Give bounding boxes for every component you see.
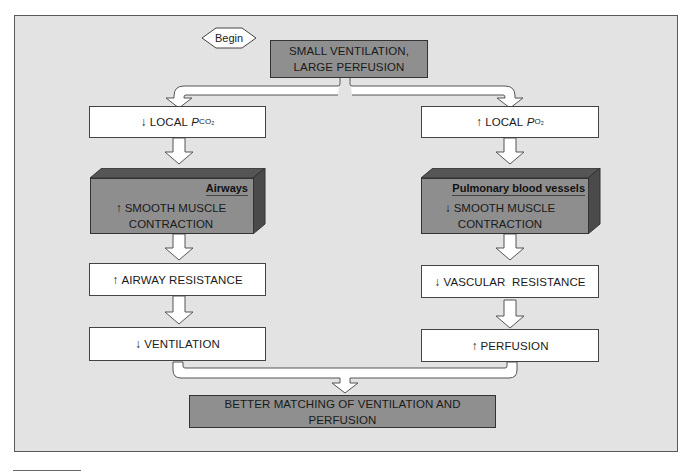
arrow-up-icon: ↑ <box>476 114 482 130</box>
airways-body: ↑SMOOTH MUSCLE CONTRACTION <box>96 200 246 232</box>
arrow-l2 <box>165 234 193 260</box>
arrow-up-icon: ↑ <box>471 338 477 354</box>
perfusion-box: ↑ PERFUSION <box>421 329 599 362</box>
arrow-down-icon: ↓ <box>434 274 440 290</box>
arrow-down-icon: ↓ <box>445 201 451 215</box>
arrow-up-icon: ↑ <box>116 201 122 215</box>
local-pco2-box: ↓ LOCAL PCO₂ <box>89 106 266 138</box>
ventilation-box: ↓ VENTILATION <box>89 327 266 361</box>
begin-label: Begin <box>200 26 258 50</box>
airways-header: Airways <box>206 182 248 196</box>
gas-subscript: CO₂ <box>199 114 214 130</box>
pulmonary-body: ↓SMOOTH MUSCLE CONTRACTION <box>425 200 575 232</box>
pressure-symbol: P <box>191 114 199 130</box>
arrow-up-icon: ↑ <box>112 272 118 288</box>
result-box: BETTER MATCHING OF VENTILATION AND PERFU… <box>189 395 496 428</box>
split-arrow-left <box>166 78 340 108</box>
airways-box: Airways ↑SMOOTH MUSCLE CONTRACTION <box>90 168 266 234</box>
merge-arrow <box>173 362 517 393</box>
arrow-down-icon: ↓ <box>141 114 147 130</box>
arrow-down-icon: ↓ <box>135 336 141 352</box>
airway-resistance-box: ↑ AIRWAY RESISTANCE <box>89 263 266 296</box>
arrow-r1 <box>496 138 524 164</box>
pressure-symbol: P <box>527 114 535 130</box>
local-po2-box: ↑ LOCAL PO₂ <box>421 106 599 138</box>
gas-subscript: O₂ <box>534 114 544 130</box>
arrow-r3 <box>496 300 524 328</box>
arrow-r2 <box>496 234 524 260</box>
pulmonary-header: Pulmonary blood vessels <box>452 182 585 196</box>
arrow-l1 <box>165 138 193 164</box>
vascular-resistance-box: ↓ VASCULAR RESISTANCE <box>421 265 599 298</box>
top-box-line2: LARGE PERFUSION <box>294 59 405 75</box>
footnote-rule <box>13 470 81 471</box>
pulmonary-vessels-box: Pulmonary blood vessels ↓SMOOTH MUSCLE C… <box>421 168 601 234</box>
local-label: LOCAL <box>150 114 188 130</box>
split-arrow-right <box>350 78 523 108</box>
top-box: SMALL VENTILATION, LARGE PERFUSION <box>270 40 428 78</box>
top-box-line1: SMALL VENTILATION, <box>289 43 409 59</box>
arrow-l3 <box>165 296 193 324</box>
